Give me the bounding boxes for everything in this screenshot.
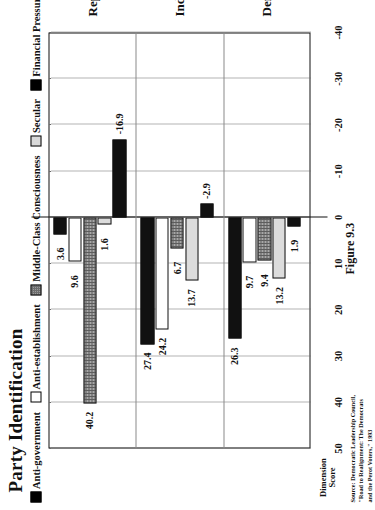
data-label: 9.4: [258, 274, 269, 287]
axis-title-line2: Score: [326, 467, 336, 487]
bar: [83, 217, 96, 403]
axis-title: Dimension Score: [318, 450, 336, 504]
legend-swatch-icon: [30, 79, 41, 90]
data-label: 6.7: [171, 261, 182, 274]
legend-label: Anti-establishment: [30, 304, 41, 389]
bar: [242, 217, 255, 262]
tick-label: 20: [332, 304, 343, 315]
data-label: 40.2: [84, 411, 95, 429]
bar: [272, 217, 285, 278]
category-divider: [223, 32, 224, 448]
data-label: -16.9: [113, 113, 124, 134]
bar: [185, 217, 198, 280]
source-line-3: and the Perot Voters," 1993: [365, 429, 372, 502]
tick-label: 10: [332, 258, 343, 269]
data-label: 3.6: [54, 247, 65, 260]
legend-item: Anti-government: [30, 412, 41, 503]
figure-caption: Figure 9.3: [342, 222, 357, 274]
tick-label: 0: [332, 214, 343, 219]
legend-item: Middle-Class Consciousness: [30, 155, 41, 295]
data-label: 13.2: [273, 286, 284, 304]
data-label: 9.7: [244, 275, 255, 288]
bar: [68, 217, 81, 261]
gridline: [48, 123, 310, 124]
bar: [112, 139, 125, 217]
data-label: 1.9: [288, 239, 299, 252]
category-divider: [135, 32, 136, 448]
category-label: Democrat: [258, 0, 274, 16]
chart-title: Party Identification: [4, 328, 26, 492]
legend-label: Financial Pressure: [30, 0, 41, 76]
gridline: [48, 170, 310, 171]
bar: [257, 217, 270, 260]
tick-label: 30: [332, 350, 343, 361]
rotated-figure-canvas: Party Identification Anti-governmentAnti…: [0, 0, 375, 510]
bar: [97, 217, 110, 224]
bar: [287, 217, 300, 226]
data-label: 1.6: [99, 238, 110, 251]
legend-swatch-icon: [30, 135, 41, 146]
tick-label: -30: [332, 71, 343, 85]
category-label: Independent: [171, 0, 187, 16]
tick-label: -10: [332, 164, 343, 178]
bar: [140, 217, 153, 344]
gridline: [48, 77, 310, 78]
gridline: [48, 447, 310, 448]
legend-swatch-icon: [30, 392, 41, 403]
bar: [155, 217, 168, 329]
legend-swatch-icon: [30, 491, 41, 502]
legend-item: Financial Pressure: [30, 0, 41, 90]
source-line-2: "Road to Realignment: The Democrats: [356, 399, 363, 502]
tick-label: -40: [332, 25, 343, 39]
data-label: 9.6: [69, 275, 80, 288]
source-note: Source: Democratic Leadership Council, "…: [348, 395, 373, 502]
legend-label: Middle-Class Consciousness: [30, 155, 41, 281]
figure-page: Party Identification Anti-governmentAnti…: [0, 0, 375, 510]
tick-label: 40: [332, 397, 343, 408]
legend-label: Anti-government: [30, 412, 41, 489]
data-label: 24.2: [156, 337, 167, 355]
data-label: 13.7: [186, 289, 197, 307]
tick-label: -20: [332, 117, 343, 131]
bar: [170, 217, 183, 248]
legend-item: Anti-establishment: [30, 304, 41, 403]
bar: [53, 217, 66, 234]
legend-item: Secular: [30, 99, 41, 146]
data-label: 27.4: [141, 352, 152, 370]
gridline: [48, 31, 310, 32]
data-label: 26.3: [229, 347, 240, 365]
legend-swatch-icon: [30, 284, 41, 295]
bar: [200, 204, 213, 217]
category-label: Republican: [84, 0, 100, 16]
chart-legend: Anti-governmentAnti-establishmentMiddle-…: [30, 0, 41, 502]
bar: [228, 217, 241, 339]
legend-label: Secular: [30, 99, 41, 133]
data-label: -2.9: [201, 183, 212, 199]
source-line-1: Source: Democratic Leadership Council,: [348, 395, 355, 502]
plot-area: [48, 32, 310, 448]
